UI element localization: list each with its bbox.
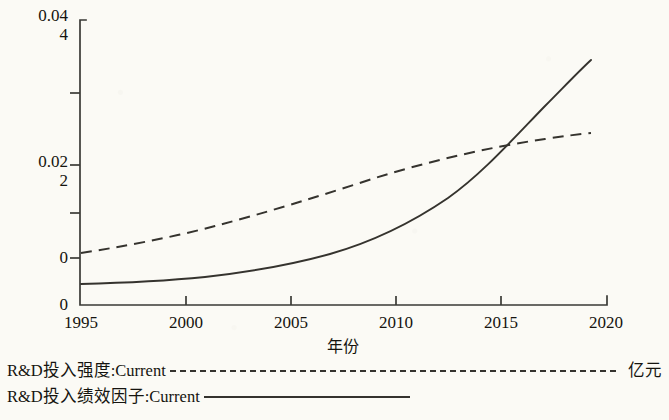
x-axis-title: 年份	[283, 337, 403, 356]
legend-row-rd-intensity: R&D投入强度:Current 亿元	[7, 358, 662, 384]
chart-figure: 0.04 4 0.02 2 0 0 1995 2000 2005 2010 20…	[0, 0, 669, 420]
chart-legend: R&D投入强度:Current 亿元 R&D投入绩效因子:Current	[0, 356, 669, 420]
legend-row-rd-performance: R&D投入绩效因子:Current	[7, 384, 662, 410]
y-axis-label-mid-right: 2	[0, 171, 68, 190]
legend-swatch-solid	[204, 391, 410, 403]
axis-frame	[80, 20, 607, 305]
y-axis-label-zero-upper: 0	[0, 248, 68, 267]
y-axis-label-mid-left: 0.02	[0, 152, 68, 171]
x-axis-label-2015: 2015	[456, 313, 546, 332]
y-axis-label-top-right: 4	[0, 25, 68, 44]
x-axis-label-2000: 2000	[141, 313, 231, 332]
y-axis-label-top-left: 0.04	[0, 6, 68, 25]
legend-swatch-dashed	[170, 365, 620, 377]
legend-unit-rd-intensity: 亿元	[628, 361, 662, 381]
legend-label-rd-intensity: R&D投入强度:Current	[7, 361, 166, 381]
x-axis-label-2020: 2020	[561, 313, 651, 332]
y-axis-label-mid: 0.02 2	[0, 152, 68, 190]
x-axis-label-2010: 2010	[351, 313, 441, 332]
y-axis-label-zero-lower: 0	[0, 295, 68, 314]
legend-label-rd-performance: R&D投入绩效因子:Current	[7, 387, 200, 407]
series-line-rd-intensity	[81, 133, 591, 253]
series-line-rd-performance	[81, 60, 591, 284]
y-axis-label-top: 0.04 4	[0, 6, 68, 44]
x-axis-label-2005: 2005	[246, 313, 336, 332]
x-axis-label-1995: 1995	[36, 313, 126, 332]
